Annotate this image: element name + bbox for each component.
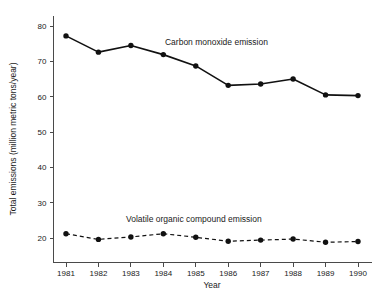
y-tick-label: 20 <box>38 234 47 243</box>
y-tick-label: 80 <box>38 22 47 31</box>
x-axis-title: Year <box>203 280 220 290</box>
data-point-marker <box>96 237 101 242</box>
data-point-marker <box>290 76 295 81</box>
data-point-marker <box>355 239 360 244</box>
y-tick-label: 70 <box>38 57 47 66</box>
data-point-marker <box>258 81 263 86</box>
x-tick-label: 1984 <box>154 269 172 278</box>
y-axis-tick-marks <box>50 26 54 238</box>
data-point-marker <box>258 237 263 242</box>
data-point-marker <box>226 238 231 243</box>
axis-spines <box>54 16 372 263</box>
y-axis-tick-labels: 20304050607080 <box>38 22 47 243</box>
data-point-marker <box>290 236 295 241</box>
x-tick-label: 1981 <box>57 269 75 278</box>
carbon-monoxide-label: Carbon monoxide emission <box>165 37 268 47</box>
chart-canvas: 20304050607080 1981198219831984198519861… <box>0 0 392 305</box>
data-point-marker <box>96 49 101 54</box>
x-tick-label: 1983 <box>122 269 140 278</box>
y-tick-label: 60 <box>38 93 47 102</box>
y-tick-label: 40 <box>38 163 47 172</box>
data-point-marker <box>323 92 328 97</box>
data-point-marker <box>323 240 328 245</box>
voc-label: Volatile organic compound emission <box>126 214 262 224</box>
data-point-marker <box>193 63 198 68</box>
data-point-marker <box>161 231 166 236</box>
emissions-line-chart: 20304050607080 1981198219831984198519861… <box>0 0 392 305</box>
y-axis-title: Total emissions (million metric tons/yea… <box>8 62 18 215</box>
data-point-marker <box>128 43 133 48</box>
x-tick-label: 1988 <box>284 269 302 278</box>
data-point-marker <box>128 234 133 239</box>
x-tick-label: 1987 <box>252 269 270 278</box>
x-tick-label: 1982 <box>90 269 108 278</box>
x-tick-label: 1986 <box>219 269 237 278</box>
x-axis-tick-labels: 1981198219831984198519861987198819891990 <box>57 269 367 278</box>
data-point-marker <box>355 93 360 98</box>
data-point-marker <box>193 235 198 240</box>
data-point-marker <box>161 52 166 57</box>
x-tick-label: 1989 <box>317 269 335 278</box>
x-tick-label: 1990 <box>349 269 367 278</box>
voc-markers <box>63 231 360 245</box>
y-tick-label: 50 <box>38 128 47 137</box>
data-point-marker <box>63 33 68 38</box>
voc-line <box>66 234 358 242</box>
x-axis-tick-marks <box>66 263 358 267</box>
data-point-marker <box>63 231 68 236</box>
x-tick-label: 1985 <box>187 269 205 278</box>
data-point-marker <box>226 83 231 88</box>
y-tick-label: 30 <box>38 199 47 208</box>
